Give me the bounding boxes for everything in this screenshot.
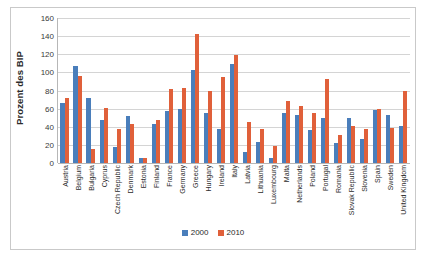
x-axis-label-slot: Malta: [280, 165, 293, 223]
x-axis-tick-label: Czech Republic: [113, 165, 120, 214]
x-axis-tick-label: Germany: [178, 165, 185, 194]
bar-2010[interactable]: [390, 128, 394, 163]
bar-2010[interactable]: [156, 120, 160, 164]
bar-group: [162, 18, 175, 163]
bar-group: [345, 18, 358, 163]
bar-group: [384, 18, 397, 163]
x-axis-tick-label: Lithuania: [256, 165, 263, 193]
x-axis-tick-label: Slovenia: [361, 165, 368, 192]
bar-2010[interactable]: [273, 146, 277, 163]
y-axis-tick-label: 60: [45, 104, 54, 113]
y-axis-tick-label: 0: [50, 159, 54, 168]
x-axis-tick-label: Greece: [191, 165, 198, 188]
bar-2010[interactable]: [208, 91, 212, 164]
bar-2010[interactable]: [351, 126, 355, 163]
bar-2010[interactable]: [130, 124, 134, 163]
bar-group: [123, 18, 136, 163]
x-axis-label-slot: Austria: [58, 165, 71, 223]
x-axis-label-slot: United Kingdom: [397, 165, 410, 223]
bar-2010[interactable]: [247, 122, 251, 163]
bar-group: [397, 18, 410, 163]
x-axis-label-slot: Italy: [227, 165, 240, 223]
y-axis-tick-label: 140: [41, 32, 54, 41]
x-axis-tick-label: Bulgaria: [87, 165, 94, 191]
bar-2010[interactable]: [91, 149, 95, 164]
bar-2010[interactable]: [182, 88, 186, 163]
chart-legend: 20002010: [0, 228, 426, 237]
x-axis-label-slot: Greece: [188, 165, 201, 223]
bar-2010[interactable]: [260, 129, 264, 163]
bar-2010[interactable]: [286, 101, 290, 163]
bar-2010[interactable]: [195, 34, 199, 163]
plot-area: 160140120100806040200: [58, 18, 410, 163]
y-axis-tick-label: 120: [41, 50, 54, 59]
x-axis-label-slot: Spain: [371, 165, 384, 223]
bar-2010[interactable]: [325, 79, 329, 163]
bars-layer: [58, 18, 410, 163]
bar-group: [97, 18, 110, 163]
bar-2010[interactable]: [234, 55, 238, 163]
bar-2010[interactable]: [338, 135, 342, 163]
x-axis-tick-label: Romania: [335, 165, 342, 193]
x-axis-label-slot: Hungary: [201, 165, 214, 223]
x-axis-tick-label: Estonia: [139, 165, 146, 188]
bar-2010[interactable]: [299, 106, 303, 163]
x-axis-tick-label: Slovak Republic: [348, 165, 355, 215]
bar-2010[interactable]: [364, 129, 368, 163]
bar-2010[interactable]: [65, 98, 69, 163]
x-axis-tick-label: Netherlands: [296, 165, 303, 203]
x-axis-tick-label: Ireland: [217, 165, 224, 186]
bar-2010[interactable]: [169, 89, 173, 163]
legend-swatch-2010: [218, 230, 224, 236]
y-axis-title: Prozent des BIP: [14, 36, 30, 140]
bar-2010[interactable]: [403, 91, 407, 164]
x-axis-label-slot: Finland: [149, 165, 162, 223]
bar-2010[interactable]: [312, 113, 316, 163]
legend-label-2010: 2010: [227, 228, 245, 237]
x-axis-tick-label: Austria: [61, 165, 68, 187]
bar-group: [214, 18, 227, 163]
chart-container: Prozent des BIP 160140120100806040200 Au…: [0, 0, 426, 257]
bar-group: [149, 18, 162, 163]
x-axis-label-slot: Sweden: [384, 165, 397, 223]
bar-group: [84, 18, 97, 163]
x-axis-tick-label: Portugal: [322, 165, 329, 191]
bar-group: [319, 18, 332, 163]
bar-group: [293, 18, 306, 163]
bar-2010[interactable]: [78, 76, 82, 163]
x-axis-tick-label: Belgium: [74, 165, 81, 190]
bar-group: [306, 18, 319, 163]
x-axis-label-slot: France: [162, 165, 175, 223]
legend-label-2000: 2000: [191, 228, 209, 237]
bar-2010[interactable]: [143, 158, 147, 163]
x-axis-label-slot: Denmark: [123, 165, 136, 223]
x-axis-tick-label: Spain: [374, 165, 381, 183]
x-axis-label-slot: Luxembourg: [267, 165, 280, 223]
x-axis-tick-label: Sweden: [387, 165, 394, 190]
x-axis-tick-label: Poland: [309, 165, 316, 187]
bar-group: [188, 18, 201, 163]
y-axis-tick-label: 100: [41, 68, 54, 77]
x-axis-tick-label: Italy: [230, 165, 237, 178]
legend-swatch-2000: [182, 230, 188, 236]
y-axis-tick-label: 20: [45, 140, 54, 149]
x-axis-label-slot: Belgium: [71, 165, 84, 223]
bar-2010[interactable]: [221, 77, 225, 163]
x-axis-tick-label: Latvia: [243, 165, 250, 184]
bar-group: [71, 18, 84, 163]
bar-2010[interactable]: [117, 129, 121, 163]
legend-item-2010[interactable]: 2010: [218, 228, 245, 237]
bar-group: [227, 18, 240, 163]
x-axis-tick-label: Hungary: [204, 165, 211, 191]
x-axis-label-slot: Bulgaria: [84, 165, 97, 223]
x-axis-tick-label: Luxembourg: [270, 165, 277, 204]
bar-2010[interactable]: [377, 109, 381, 163]
bar-group: [136, 18, 149, 163]
bar-2010[interactable]: [104, 108, 108, 163]
x-axis-label-slot: Romania: [332, 165, 345, 223]
bar-group: [358, 18, 371, 163]
x-axis-labels: AustriaBelgiumBulgariaCyprusCzech Republ…: [58, 165, 410, 223]
x-axis-tick-label: Denmark: [126, 165, 133, 193]
legend-item-2000[interactable]: 2000: [182, 228, 209, 237]
bar-group: [58, 18, 71, 163]
